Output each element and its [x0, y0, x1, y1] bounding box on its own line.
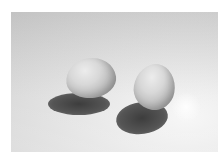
- egg-photograph: [11, 12, 218, 152]
- light-reflection: [171, 92, 201, 122]
